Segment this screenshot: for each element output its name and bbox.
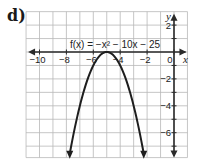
y-tick-label: −6 xyxy=(160,127,171,138)
y-axis-up-arrow-icon xyxy=(171,14,178,21)
y-axis-down-arrow-icon xyxy=(171,151,178,158)
y-tick-label: −2 xyxy=(160,73,171,84)
x-tick-label: −10 xyxy=(29,54,45,65)
x-axis-label: x xyxy=(182,53,188,65)
function-label: f(x) = −x² − 10x − 25 xyxy=(70,39,160,50)
parabola-chart: −10−8−6−4−202−2−4−6xy f(x) = −x² − 10x −… xyxy=(0,0,202,168)
y-axis-label: y xyxy=(165,10,171,22)
x-tick-label: −2 xyxy=(140,54,151,65)
x-tick-label: −8 xyxy=(59,54,70,65)
x-tick-label: 0 xyxy=(167,54,172,65)
y-tick-label: −4 xyxy=(160,100,171,111)
